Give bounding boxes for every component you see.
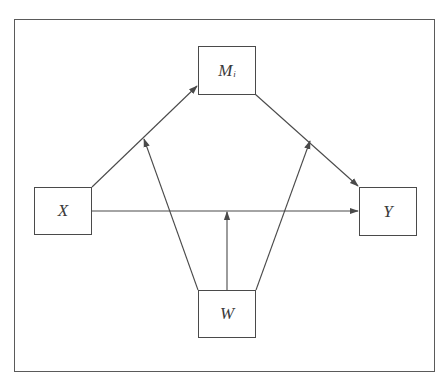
node-m-subscript: i: [233, 69, 236, 79]
node-m: Mi: [198, 46, 256, 95]
node-y: Y: [359, 187, 417, 236]
edge-m-to-y: [255, 94, 358, 186]
node-m-label: M: [218, 61, 232, 81]
node-x-label: X: [58, 201, 68, 221]
node-w-label: W: [220, 304, 234, 324]
node-w: W: [198, 290, 256, 338]
edge-w-moderates-x-m: [144, 139, 198, 290]
edge-x-to-m: [92, 86, 197, 187]
node-x: X: [34, 187, 92, 235]
edge-w-moderates-m-y: [256, 141, 310, 290]
node-y-label: Y: [383, 202, 392, 222]
